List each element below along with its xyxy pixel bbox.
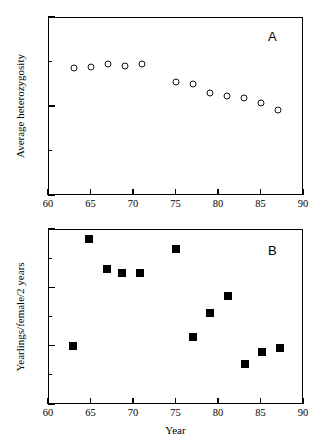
panel-a-y-axis-title: Average heterozygosity: [14, 54, 26, 158]
y-tick: [48, 16, 55, 17]
y-tick: [48, 287, 55, 288]
x-tick: [175, 189, 176, 195]
panel-a-letter: A: [268, 29, 277, 44]
x-tick: [217, 189, 218, 195]
x-tick-label: 90: [298, 408, 309, 419]
data-point: [87, 64, 94, 71]
x-tick: [260, 189, 261, 195]
data-point: [85, 235, 93, 243]
x-tick: [132, 398, 133, 404]
x-tick-label: 70: [128, 408, 139, 419]
data-point: [136, 269, 144, 277]
data-point: [241, 360, 249, 368]
panel-b-y-axis-title: Yearlings/female/2 years: [14, 262, 26, 371]
data-point: [104, 61, 111, 68]
x-tick-label: 75: [170, 408, 181, 419]
data-point: [223, 93, 230, 100]
data-point: [69, 342, 77, 350]
data-point: [189, 333, 197, 341]
data-point: [206, 89, 213, 96]
data-point: [257, 100, 264, 107]
x-tick: [302, 189, 303, 195]
y-tick: [48, 345, 55, 346]
data-point: [121, 62, 128, 69]
x-tick-label: 85: [255, 199, 266, 210]
x-tick-label: 90: [298, 199, 309, 210]
panel-a-plot-frame: [48, 17, 303, 195]
y-minor-tick: [48, 374, 52, 375]
x-tick: [132, 189, 133, 195]
data-point: [172, 78, 179, 85]
y-tick: [48, 105, 55, 106]
data-point: [189, 80, 196, 87]
y-tick: [48, 228, 55, 229]
data-point: [224, 292, 232, 300]
data-point: [274, 107, 281, 114]
data-point: [138, 61, 145, 68]
y-minor-tick: [48, 316, 52, 317]
data-point: [206, 309, 214, 317]
x-tick-label: 65: [85, 199, 96, 210]
x-tick: [302, 398, 303, 404]
panel-b-x-axis-title: Year: [165, 424, 185, 436]
x-tick-label: 65: [85, 408, 96, 419]
data-point: [103, 265, 111, 273]
y-minor-tick: [48, 150, 52, 151]
x-tick-label: 60: [43, 199, 54, 210]
data-point: [172, 245, 180, 253]
x-tick-label: 85: [255, 408, 266, 419]
data-point: [240, 94, 247, 101]
panel-b-plot-frame: [48, 229, 303, 404]
x-tick: [90, 189, 91, 195]
data-point: [70, 64, 77, 71]
data-point: [276, 344, 284, 352]
figure-container: A Average heterozygosity 606570758085900…: [0, 0, 316, 447]
x-tick-label: 75: [170, 199, 181, 210]
y-minor-tick: [48, 258, 52, 259]
x-tick-label: 70: [128, 199, 139, 210]
panel-b-letter: B: [268, 243, 277, 258]
y-tick: [48, 403, 55, 404]
x-tick: [217, 398, 218, 404]
x-tick-label: 80: [213, 408, 224, 419]
x-tick: [175, 398, 176, 404]
x-tick: [260, 398, 261, 404]
y-tick: [48, 194, 55, 195]
x-tick-label: 80: [213, 199, 224, 210]
x-tick-label: 60: [43, 408, 54, 419]
data-point: [118, 269, 126, 277]
y-minor-tick: [48, 61, 52, 62]
x-tick: [90, 398, 91, 404]
data-point: [258, 348, 266, 356]
